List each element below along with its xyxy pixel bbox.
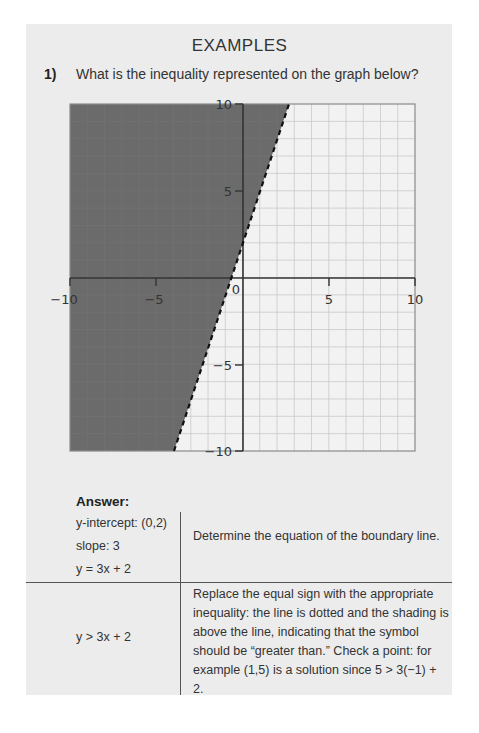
y-tick-label: 5 xyxy=(224,184,232,199)
x-tick-label: 5 xyxy=(325,292,333,307)
y-tick-label: −10 xyxy=(205,444,232,459)
answer-explanation-2: Replace the equal sign with the appropri… xyxy=(193,585,449,699)
origin-label: 0 xyxy=(232,282,240,297)
table-column-divider xyxy=(180,512,181,695)
y-tick-label: −5 xyxy=(213,358,232,373)
answer-step-slope: slope: 3 xyxy=(76,537,120,556)
table-row-divider xyxy=(26,582,452,583)
answer-inequality: y > 3x + 2 xyxy=(76,628,131,647)
x-tick-label: 10 xyxy=(407,292,424,307)
y-tick-label: 10 xyxy=(215,97,232,112)
x-tick-label: −10 xyxy=(50,292,77,307)
answer-step-intercept: y-intercept: (0,2) xyxy=(76,514,167,533)
answer-label: Answer: xyxy=(76,494,129,509)
x-tick-label: −5 xyxy=(144,292,163,307)
answer-explanation-1: Determine the equation of the boundary l… xyxy=(193,527,443,546)
answer-step-equation: y = 3x + 2 xyxy=(76,560,131,579)
